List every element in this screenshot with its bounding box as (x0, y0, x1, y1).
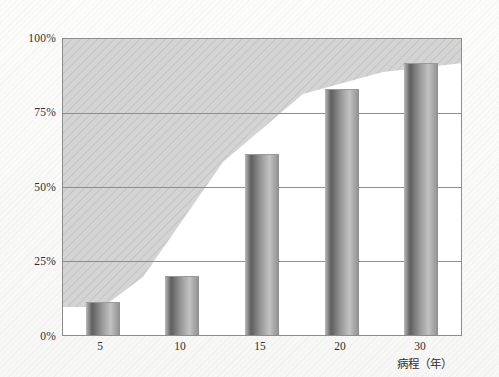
bar-15[interactable] (245, 154, 279, 335)
bar-20[interactable] (325, 89, 359, 335)
bar-10[interactable] (165, 276, 199, 335)
ytick-label-75: 75% (10, 106, 56, 118)
ytick-label-50: 50% (10, 181, 56, 193)
plot-area (62, 38, 462, 336)
xtick-label-20: 20 (310, 340, 370, 352)
xtick-label-5: 5 (70, 340, 130, 352)
ytick-label-25: 25% (10, 255, 56, 267)
bar-chart-figure: 100% 75% 50% 25% 0% 5 10 15 20 30 病程（年） (0, 0, 499, 377)
x-axis-title: 病程（年） (364, 355, 484, 371)
xtick-label-15: 15 (230, 340, 290, 352)
bar-30[interactable] (404, 63, 438, 335)
xtick-label-30: 30 (390, 340, 450, 352)
bar-5[interactable] (86, 302, 120, 335)
ytick-label-0: 0% (10, 330, 56, 342)
xtick-label-10: 10 (150, 340, 210, 352)
page-root: 100% 75% 50% 25% 0% 5 10 15 20 30 病程（年） (0, 0, 499, 377)
ytick-label-100: 100% (10, 32, 56, 44)
gridline-75 (63, 113, 461, 114)
